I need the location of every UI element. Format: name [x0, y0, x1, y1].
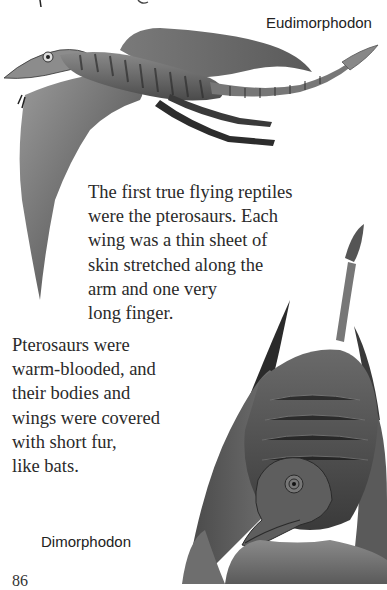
- paragraph-line: warm-blooded, and: [12, 357, 160, 381]
- paragraph-line: their bodies and: [12, 381, 160, 405]
- caption-eudimorphodon: Eudimorphodon: [266, 14, 372, 31]
- dimorphodon-illustration: [170, 220, 387, 584]
- page-number: 86: [12, 572, 28, 590]
- paragraph-line: like bats.: [12, 454, 160, 478]
- paragraph-line: Pterosaurs were: [12, 333, 160, 357]
- paragraph-2: Pterosaurs were warm-blooded, and their …: [12, 333, 160, 478]
- paragraph-line: wings were covered: [12, 406, 160, 430]
- paragraph-line: The first true flying reptiles: [88, 180, 292, 204]
- caption-dimorphodon: Dimorphodon: [41, 533, 131, 550]
- heading-fragment: [30, 0, 150, 8]
- paragraph-line: with short fur,: [12, 430, 160, 454]
